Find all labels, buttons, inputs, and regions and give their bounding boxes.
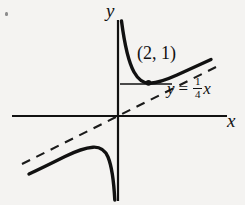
asymptote-equation-variable: x [203, 80, 211, 97]
x-axis-label: x [227, 111, 235, 130]
asymptote-equation-label: y = 1 4 x [167, 76, 211, 100]
fraction-denominator: 4 [194, 89, 202, 100]
y-axis-label: y [106, 1, 114, 20]
fraction-numerator: 1 [194, 76, 202, 87]
minimum-point-marker [146, 80, 152, 86]
plot-canvas [0, 0, 245, 205]
graph-figure: y x (2, 1) y = 1 4 x [0, 0, 245, 205]
asymptote-equation-equals: = [179, 80, 189, 97]
asymptote-equation-fraction: 1 4 [193, 76, 202, 100]
minimum-point-label: (2, 1) [137, 44, 176, 62]
asymptote-equation-lhs: y [167, 80, 175, 97]
